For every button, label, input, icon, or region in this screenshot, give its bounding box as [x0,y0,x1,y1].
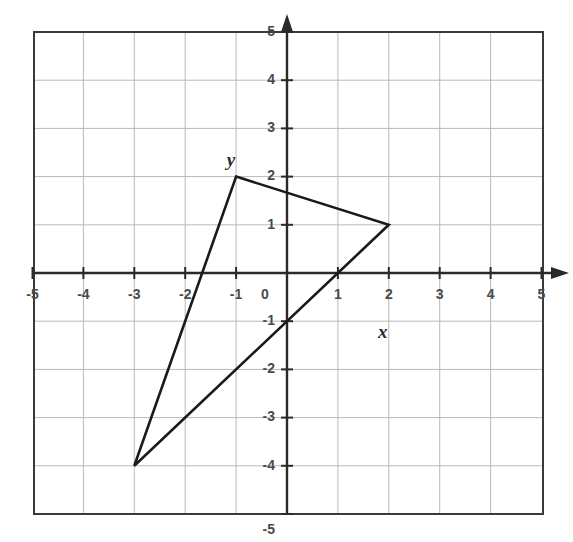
x-tick-label: 2 [385,286,393,302]
coordinate-plane-svg: -5-4-3-2-1123450-5-4-3-2-112345 yx [0,0,573,542]
x-tick-label: -5 [26,286,39,302]
y-tick-label: 1 [267,216,275,232]
x-tick-label: -2 [179,286,192,302]
x-tick-label: -3 [128,286,141,302]
axis-name-labels: yx [225,149,388,341]
y-axis-arrowhead [281,14,293,32]
y-tick-label: -4 [263,457,276,473]
y-tick-label: 3 [267,119,275,135]
x-tick-label: 3 [436,286,444,302]
y-tick-label: 5 [267,23,275,39]
coordinate-plane-figure: -5-4-3-2-1123450-5-4-3-2-112345 yx [0,0,573,542]
y-axis-name-label: y [225,149,236,170]
y-tick-label: -2 [263,360,276,376]
x-tick-label: -1 [230,286,243,302]
axes [34,14,569,514]
origin-tick-label: 0 [261,286,269,302]
y-tick-label: -3 [263,408,276,424]
y-tick-label: -1 [263,312,276,328]
x-tick-label: 1 [334,286,342,302]
y-tick-label: 2 [267,167,275,183]
y-tick-label: 4 [267,71,275,87]
x-tick-label: 5 [538,286,546,302]
x-axis-name-label: x [377,321,388,342]
y-tick-label: -5 [263,521,276,537]
x-tick-label: -4 [77,286,90,302]
x-axis-arrowhead [551,267,569,279]
x-tick-label: 4 [487,286,495,302]
